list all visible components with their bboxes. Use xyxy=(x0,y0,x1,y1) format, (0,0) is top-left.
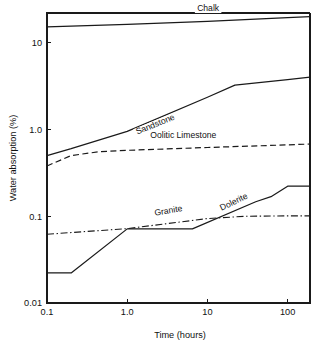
x-axis-title: Time (hours) xyxy=(154,330,206,340)
y-tick-label-2: 1.0 xyxy=(29,125,42,135)
y-tick-label-0: 0.01 xyxy=(24,298,42,308)
series-line-oolitic-limestone xyxy=(47,144,310,166)
series-label-dolerite: Dolerite xyxy=(218,191,249,213)
series-label-chalk: Chalk xyxy=(197,3,220,13)
series-line-chalk xyxy=(47,17,310,27)
x-axis-tick-labels: 0.11.010100 xyxy=(41,307,296,317)
y-axis-ticks xyxy=(47,43,51,303)
axis-frame xyxy=(47,13,310,303)
series-labels: ChalkSandstoneOolitic LimestoneGraniteDo… xyxy=(133,3,254,219)
water-absorption-chart: 0.11.010100 0.010.11.010 ChalkSandstoneO… xyxy=(0,0,328,349)
x-tick-label-2: 10 xyxy=(202,307,212,317)
x-axis-ticks xyxy=(47,299,288,303)
series-label-group: Granite xyxy=(150,202,187,219)
chart-canvas: 0.11.010100 0.010.11.010 ChalkSandstoneO… xyxy=(0,0,328,349)
series-label-group: Oolitic Limestone xyxy=(143,130,224,141)
series-label-group: Chalk xyxy=(195,3,222,14)
y-tick-label-3: 10 xyxy=(32,38,42,48)
x-tick-label-1: 1.0 xyxy=(121,307,134,317)
x-tick-label-3: 100 xyxy=(280,307,295,317)
y-tick-label-1: 0.1 xyxy=(29,212,42,222)
series-line-granite xyxy=(47,216,310,234)
series-label-oolitic-limestone: Oolitic Limestone xyxy=(150,130,216,140)
data-series xyxy=(47,17,310,273)
series-line-dolerite xyxy=(47,186,310,273)
y-axis-tick-labels: 0.010.11.010 xyxy=(24,38,42,308)
x-tick-label-0: 0.1 xyxy=(41,307,54,317)
y-axis-title: Water absorption (%) xyxy=(8,115,18,201)
series-line-sandstone xyxy=(47,77,310,155)
